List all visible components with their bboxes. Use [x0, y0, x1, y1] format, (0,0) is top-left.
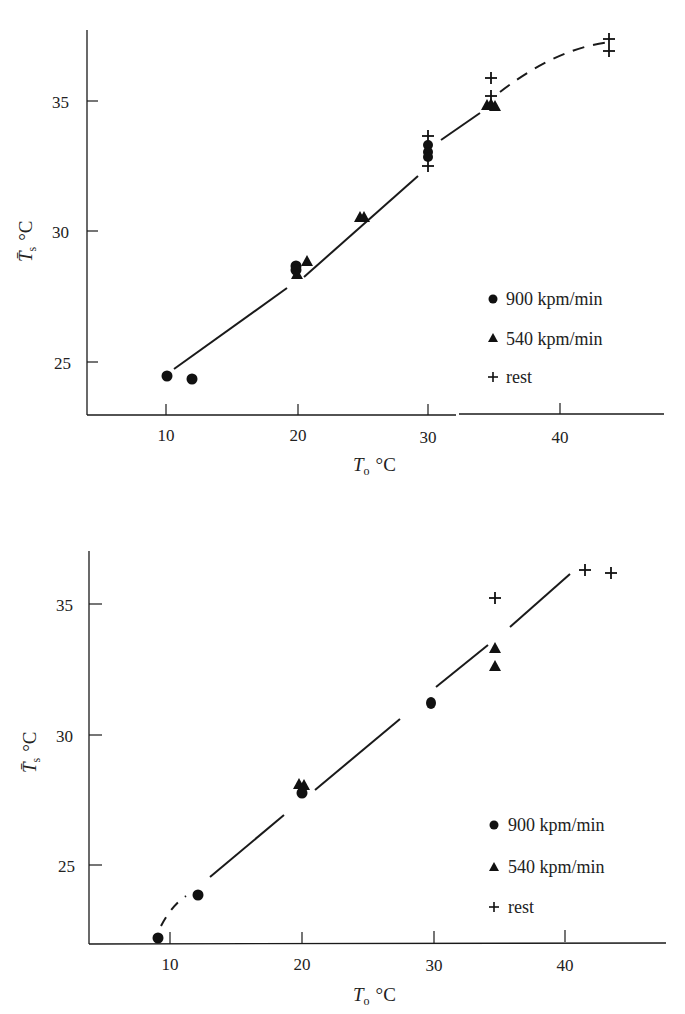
series-rest	[422, 33, 615, 172]
legend: 900 kpm/min 540 kpm/min rest	[489, 815, 605, 917]
y-tick-label-25: 25	[54, 354, 71, 373]
legend-triangle-icon	[488, 333, 498, 342]
legend-circle-icon	[489, 295, 498, 304]
chart-top-svg: 35 30 25 10 20 30 40 To°C T̄s°C	[0, 0, 685, 500]
legend-plus-icon	[488, 372, 498, 382]
x-ticks	[166, 403, 560, 415]
x-tick-label-40: 40	[557, 956, 574, 975]
series-540-kpm	[291, 98, 501, 279]
y-axis-title: T̄s°C	[15, 220, 39, 262]
y-ticks	[89, 604, 102, 865]
y-ticks	[87, 101, 98, 362]
legend-label-900: 900 kpm/min	[506, 289, 603, 309]
legend-label-900: 900 kpm/min	[508, 815, 605, 835]
x-tick-label-20: 20	[290, 426, 307, 445]
legend-plus-icon	[489, 902, 499, 912]
legend-label-rest: rest	[508, 897, 534, 917]
series-rest	[489, 564, 617, 604]
legend-label-540: 540 kpm/min	[508, 857, 605, 877]
chart-bottom-svg: 35 30 25 10 20 30 40 To°C T̄s°C	[0, 520, 685, 1014]
y-tick-label-35: 35	[56, 596, 73, 615]
x-axis-title: To°C	[353, 454, 396, 478]
x-tick-label-10: 10	[162, 955, 179, 974]
y-tick-label-25: 25	[58, 857, 75, 876]
x-tick-label-30: 30	[420, 428, 437, 447]
x-axis-title: To°C	[353, 984, 396, 1008]
chart-top: 35 30 25 10 20 30 40 To°C T̄s°C	[0, 0, 685, 500]
series-540-kpm	[293, 642, 501, 790]
series-900-kpm	[153, 697, 437, 944]
x-tick-label-30: 30	[426, 956, 443, 975]
x-tick-label-20: 20	[294, 955, 311, 974]
fit-line	[174, 42, 613, 369]
legend-triangle-icon	[489, 862, 499, 871]
legend-label-rest: rest	[506, 367, 532, 387]
x-tick-label-40: 40	[552, 428, 569, 447]
legend-label-540: 540 kpm/min	[506, 329, 603, 349]
legend: 900 kpm/min 540 kpm/min rest	[488, 289, 603, 387]
legend-circle-icon	[490, 821, 499, 830]
x-tick-label-10: 10	[158, 426, 175, 445]
chart-bottom: 35 30 25 10 20 30 40 To°C T̄s°C	[0, 520, 685, 1014]
y-axis-title: T̄s°C	[19, 731, 43, 773]
y-tick-label-35: 35	[52, 93, 69, 112]
y-tick-label-30: 30	[52, 223, 69, 242]
y-tick-label-30: 30	[56, 727, 73, 746]
x-ticks	[170, 930, 565, 944]
x-axis	[89, 943, 666, 944]
